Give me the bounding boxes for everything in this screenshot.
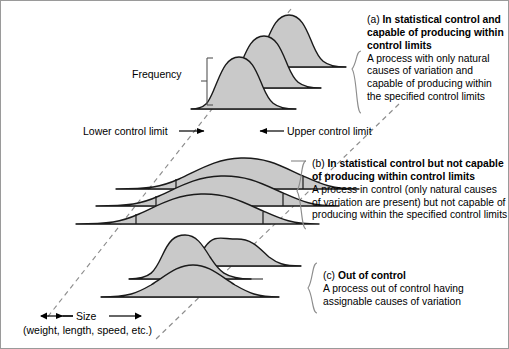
panel-a-body: A process with only natural causes of va…: [367, 53, 507, 104]
panel-b-tag: (b): [312, 158, 325, 169]
size-axis-label: Size: [76, 310, 96, 322]
panel-c-tag: (c): [323, 270, 335, 281]
panel-b-caption: (b) In statistical control but not capab…: [312, 158, 508, 222]
process-capability-figure: Frequency Lower control limit Upper cont…: [0, 0, 509, 349]
panel-c-bracket: [308, 263, 317, 313]
panel-a-tag: (a): [367, 14, 380, 25]
lower-control-limit-label: Lower control limit: [83, 125, 168, 137]
panel-a-curves: [191, 15, 346, 109]
frequency-axis-label: Frequency: [132, 68, 182, 80]
panel-b-heading: In statistical control but not capable o…: [312, 158, 504, 182]
size-axis-units-label: (weight, length, speed, etc.): [23, 324, 152, 336]
panel-a-caption: (a) In statistical control and capable o…: [367, 14, 507, 104]
panel-a-heading: In statistical control and capable of pr…: [367, 14, 504, 51]
panel-a-bracket: [352, 51, 361, 113]
panel-c-curves: [101, 235, 301, 297]
panel-c-caption: (c) Out of control A process out of cont…: [323, 270, 508, 309]
panel-c-curve-front: [101, 265, 279, 297]
upper-control-limit-label: Upper control limit: [287, 125, 372, 137]
panel-c-heading: Out of control: [338, 270, 406, 281]
panel-b-body: A process in control (only natural cause…: [312, 184, 508, 223]
panel-c-body: A process out of control having assignab…: [323, 283, 508, 309]
